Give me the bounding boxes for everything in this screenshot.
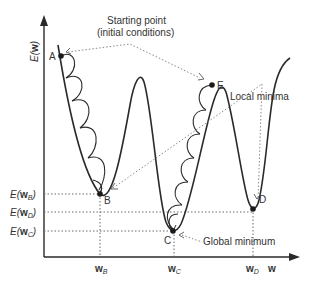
leader-arrow-a-icon <box>66 48 71 54</box>
x-tick-wc: wC <box>167 263 182 275</box>
initial-conditions-label: (initial conditions) <box>97 27 174 38</box>
x-axis-label: w <box>267 263 276 274</box>
y-tick-e-wb: E(wB) <box>10 189 36 201</box>
starting-point-leader <box>68 44 200 78</box>
x-tick-wb: wB <box>94 263 108 275</box>
point-e-label: E <box>217 80 224 91</box>
x-tick-wd: wD <box>245 263 259 275</box>
error-curve <box>58 45 290 231</box>
axes <box>40 15 300 261</box>
point-c-label: C <box>164 235 171 246</box>
starting-point-label: Starting point <box>107 15 166 26</box>
y-tick-labels: E(wB) E(wD) E(wC) <box>10 189 36 238</box>
global-minimum-label: Global minimum <box>203 236 275 247</box>
point-c-marker <box>170 228 176 234</box>
point-a-marker <box>58 53 64 59</box>
y-axis-arrow-icon <box>40 15 48 26</box>
local-minima-leader-b <box>113 84 262 188</box>
x-tick-labels: wB wC wD w <box>94 263 276 275</box>
point-d-marker <box>250 206 256 212</box>
y-tick-e-wc: E(wC) <box>10 226 36 238</box>
point-b-label: B <box>104 195 111 206</box>
point-a-label: A <box>49 51 56 62</box>
y-tick-e-wd: E(wD) <box>10 207 36 219</box>
descent-path-a-to-b <box>61 54 105 194</box>
global-minimum-leader <box>182 235 202 242</box>
descent-path-e-to-c <box>167 85 212 231</box>
y-axis-label: E(w) <box>29 41 40 62</box>
leader-arrow-e-icon <box>198 73 204 80</box>
point-b-marker <box>97 191 103 197</box>
x-axis-arrow-icon <box>289 253 300 261</box>
point-e-marker <box>209 82 215 88</box>
error-surface-diagram: E(w) A B C D E Starting point <box>0 0 313 285</box>
local-minima-label: Local minima <box>230 91 289 102</box>
